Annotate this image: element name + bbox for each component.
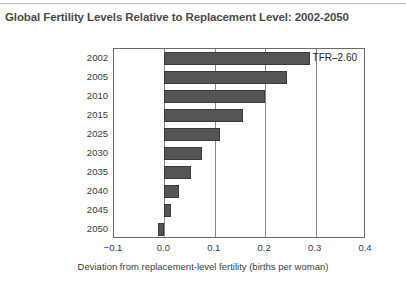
x-axis-tick-label: 0.3 bbox=[308, 242, 321, 253]
x-axis-tick-label: 0.1 bbox=[207, 242, 220, 253]
y-axis-tick-label: 2030 bbox=[68, 147, 108, 158]
bar bbox=[164, 109, 242, 123]
x-axis-tick-label: 0.0 bbox=[157, 242, 170, 253]
chart-title: Global Fertility Levels Relative to Repl… bbox=[5, 11, 349, 23]
y-axis-tick-label: 2025 bbox=[68, 128, 108, 139]
bar bbox=[164, 71, 287, 85]
bar bbox=[158, 223, 165, 237]
y-axis-tick-label: 2002 bbox=[68, 52, 108, 63]
bar bbox=[164, 204, 171, 218]
y-axis-tick-label: 2015 bbox=[68, 109, 108, 120]
bar bbox=[164, 128, 219, 142]
plot-area: TFR–2.60 bbox=[113, 48, 365, 238]
bar bbox=[164, 52, 309, 66]
bar bbox=[164, 147, 202, 161]
y-axis-tick-label: 2010 bbox=[68, 90, 108, 101]
x-axis-tick-labels: −0.10.00.10.20.30.4 bbox=[0, 242, 406, 256]
y-axis-tick-label: 2040 bbox=[68, 185, 108, 196]
y-axis-tick-label: 2035 bbox=[68, 166, 108, 177]
y-axis-tick-label: 2045 bbox=[68, 204, 108, 215]
bar bbox=[164, 185, 178, 199]
x-axis-tick-label: 0.2 bbox=[258, 242, 271, 253]
x-axis-title: Deviation from replacement-level fertili… bbox=[0, 261, 406, 272]
y-axis-tick-label: 2005 bbox=[68, 71, 108, 82]
gridline bbox=[316, 49, 317, 237]
y-axis-tick-label: 2050 bbox=[68, 223, 108, 234]
bar bbox=[164, 90, 265, 104]
tfr-annotation-label: TFR–2.60 bbox=[313, 52, 357, 63]
x-axis-tick-label: −0.1 bbox=[104, 242, 123, 253]
y-axis-tick-labels: 2002200520102015202520302035204020452050 bbox=[63, 48, 108, 238]
bar bbox=[164, 166, 190, 180]
x-axis-tick-label: 0.4 bbox=[358, 242, 371, 253]
top-divider bbox=[0, 3, 406, 4]
